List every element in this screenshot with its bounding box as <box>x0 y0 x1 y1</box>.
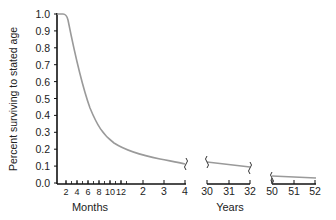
y-ticks: 0.00.10.20.30.40.50.60.70.80.91.0 <box>35 8 57 189</box>
x-tick-label: 51 <box>288 185 300 197</box>
y-axis-label: Percent surviving to stated age <box>7 27 19 171</box>
x-tick-label: 31 <box>223 185 235 197</box>
x-tick-label: 32 <box>244 185 256 197</box>
x-tick-label: 52 <box>309 185 321 197</box>
y-tick-label: 0.5 <box>35 93 50 105</box>
y-tick-label: 0.9 <box>35 25 50 37</box>
y-tick-label: 0.2 <box>35 143 50 155</box>
survival-curve-middle <box>207 162 250 167</box>
y-tick-label: 1.0 <box>35 8 50 20</box>
x-tick-label: 4 <box>182 185 188 197</box>
y-tick-label: 0.6 <box>35 76 50 88</box>
y-tick-label: 0.0 <box>35 177 50 189</box>
x-tick-label: 4 <box>74 187 79 197</box>
survival-curve-late <box>272 176 316 178</box>
x-ticks-segment-3: 505152 <box>266 180 321 197</box>
x-tick-label: 50 <box>266 185 278 197</box>
x-ticks-segment-1: 24681012234 <box>63 180 188 197</box>
x-tick-label: 3 <box>161 185 167 197</box>
x-tick-label: 30 <box>201 185 213 197</box>
x-tick-label: 10 <box>105 187 115 197</box>
x-tick-label: 2 <box>63 187 68 197</box>
x-tick-label: 12 <box>116 187 126 197</box>
y-tick-label: 0.7 <box>35 59 50 71</box>
x-ticks-segment-2: 303132 <box>201 180 256 197</box>
y-tick-label: 0.3 <box>35 126 50 138</box>
axis-break-icon <box>249 162 252 174</box>
x-axis-label-years: Years <box>216 201 244 213</box>
survival-chart: Percent surviving to stated age 0.00.10.… <box>0 0 336 220</box>
y-tick-label: 0.8 <box>35 42 50 54</box>
survival-curve-early <box>57 14 185 164</box>
x-axis-label-months: Months <box>72 201 109 213</box>
y-tick-label: 0.4 <box>35 109 50 121</box>
x-tick-label: 6 <box>85 187 90 197</box>
x-tick-label: 8 <box>96 187 101 197</box>
y-tick-label: 0.1 <box>35 160 50 172</box>
x-tick-label: 2 <box>140 185 146 197</box>
